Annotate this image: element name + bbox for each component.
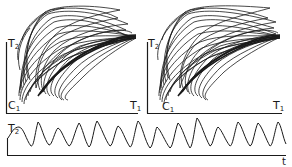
left-y-axis-label: T2 <box>8 38 19 51</box>
attractor-dense-band-right <box>178 35 280 96</box>
t2-time-series-line <box>8 118 286 148</box>
attractor-trajectory-left <box>18 6 136 104</box>
left-origin-label: C1 <box>8 100 20 113</box>
phase-portrait-right <box>147 6 282 114</box>
attractor-trajectory-right <box>158 6 280 104</box>
right-y-axis-label: T2 <box>148 38 159 51</box>
left-x-axis-label: T1 <box>130 100 141 113</box>
right-origin-label: C1 <box>162 101 174 114</box>
phase-portrait-left <box>6 6 138 113</box>
figure <box>0 0 292 167</box>
time-series-y-axis-label: T2 <box>8 123 19 136</box>
time-series <box>7 118 286 156</box>
time-axis-label: t <box>282 157 286 167</box>
right-x-axis-label: T1 <box>273 100 284 113</box>
